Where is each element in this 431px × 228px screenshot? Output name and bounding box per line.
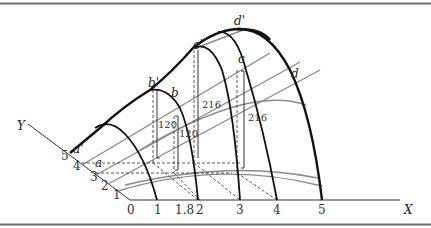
axes — [28, 124, 400, 200]
curve-c — [193, 46, 240, 200]
point-label-a: a — [95, 156, 102, 170]
point-label-b: b — [171, 86, 179, 100]
y-tick-2: 2 — [101, 179, 109, 193]
y-tick-1: 1 — [113, 188, 121, 202]
height-label-b: 120 — [179, 128, 198, 139]
x-tick-3: 3 — [236, 203, 244, 217]
point-label-b-prime: b' — [148, 76, 159, 90]
point-label-a-prime: a' — [73, 142, 83, 156]
y-tick-4: 4 — [73, 159, 81, 173]
x-axis-ticks: 0 1 1.8 2 3 4 5 X — [127, 203, 413, 217]
x-tick-1: 1 — [154, 203, 162, 217]
y-axis-label: Y — [17, 119, 26, 133]
point-label-d: d — [291, 67, 299, 81]
dashed-diag-3 — [194, 163, 240, 200]
dashed-diag-1 — [153, 163, 198, 200]
diagram-frame: 0 1 1.8 2 3 4 5 X 1 2 3 4 5 Y a' a b' b … — [0, 0, 431, 228]
x-axis-label: X — [403, 203, 413, 217]
height-label-b-prime: 120 — [158, 119, 177, 130]
x-tick-5: 5 — [318, 203, 326, 217]
x-tick-0: 0 — [127, 203, 135, 217]
y-axis-ticks: 1 2 3 4 5 Y — [17, 119, 121, 202]
height-bar-c — [241, 71, 244, 168]
point-label-d-prime: d' — [234, 14, 245, 28]
y-tick-3: 3 — [90, 170, 98, 184]
y-tick-5: 5 — [61, 149, 69, 163]
production-surface-diagram: 0 1 1.8 2 3 4 5 X 1 2 3 4 5 Y a' a b' b … — [0, 0, 431, 228]
point-label-c: c — [238, 52, 245, 66]
black-curves — [70, 29, 322, 200]
x-tick-2: 2 — [196, 203, 204, 217]
height-label-c: 216 — [248, 112, 267, 123]
gray-grid-lines — [82, 30, 322, 199]
x-tick-4: 4 — [273, 203, 281, 217]
height-label-c-prime: 216 — [202, 99, 221, 110]
point-label-c-prime: c' — [193, 38, 203, 52]
x-tick-1-8: 1.8 — [175, 203, 194, 217]
gray-line-y1 — [118, 174, 322, 191]
